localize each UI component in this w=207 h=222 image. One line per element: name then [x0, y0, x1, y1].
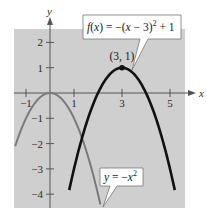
- y-axis-label: y: [46, 5, 52, 17]
- tail: + 1: [157, 21, 175, 33]
- callout-g-text: y = −x2: [103, 169, 137, 184]
- y-tick-label: −4: [31, 188, 43, 200]
- parabola-chart: xy−113521−1−2−3−4 (3, 1)f(x) = −(x − 3)2…: [0, 0, 207, 222]
- x-tick-label: 1: [71, 97, 77, 109]
- y-axis-arrow-icon: [47, 17, 53, 25]
- x-axis-label: x: [198, 87, 204, 99]
- exponent: 2: [133, 169, 137, 178]
- rest: − 3): [131, 21, 153, 34]
- y-tick-label: −1: [31, 112, 43, 124]
- y-tick-label: 2: [38, 36, 44, 48]
- vertex-label: (3, 1): [110, 50, 135, 63]
- y-tick-label: −3: [31, 163, 43, 175]
- equals: = −: [109, 171, 128, 183]
- x-tick-label: −1: [20, 97, 32, 109]
- x-axis-arrow-icon: [188, 90, 196, 96]
- y-tick-label: 1: [38, 62, 44, 74]
- equals: = −(: [103, 21, 126, 34]
- x-tick-label: 5: [167, 97, 173, 109]
- x-tick-label: 3: [119, 97, 125, 109]
- vertex-point: [119, 65, 125, 71]
- callout-f-text: f(x) = −(x − 3)2 + 1: [87, 19, 175, 34]
- y-tick-label: −2: [31, 138, 43, 150]
